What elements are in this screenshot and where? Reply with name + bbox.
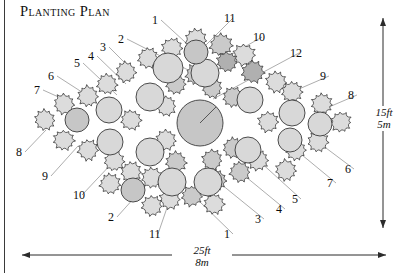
callout-number-12: 12 [290,47,302,59]
tree-symbol [235,137,261,163]
callout-number-10: 10 [73,189,85,201]
callout-number-7: 7 [327,177,333,189]
leader-line-8-12 [25,130,46,152]
callout-number-3: 3 [255,213,261,225]
width-dimension-arrow-head [378,252,386,258]
callout-number-4: 4 [88,50,94,62]
tree-symbol [308,112,332,136]
tree-symbol [136,138,164,166]
shrub-symbol [229,161,250,182]
plan-frame: Planting Plan 11123101245967886971054231… [0,0,408,273]
tree-symbol [278,128,302,152]
height-dimension-label: 15ft5m [364,106,404,131]
tree-symbol [237,87,263,113]
callout-number-8: 8 [16,146,22,158]
tree-symbol [97,129,123,155]
callout-number-6: 6 [48,70,54,82]
tree-symbol [136,83,164,111]
callout-number-1: 1 [152,14,158,26]
shrub-symbol [96,73,118,94]
callout-number-3: 3 [100,41,106,53]
callout-number-4: 4 [276,203,282,215]
callout-number-2: 2 [108,211,114,223]
tree-symbol [96,97,122,123]
tree-symbol [65,108,89,132]
height-dimension-arrow-head [380,18,386,26]
shrub-symbol [116,61,137,83]
callout-number-10: 10 [253,31,265,43]
shrub-symbol [282,81,304,101]
shrub-symbol [99,173,121,194]
callout-number-5: 5 [74,57,80,69]
tree-symbol [121,178,145,202]
width-dimension-label: 25ft8m [172,244,232,269]
callout-number-11: 11 [224,12,236,24]
shrub-symbol [209,33,234,56]
callout-number-11: 11 [149,228,161,240]
width-dimension-arrow-head [22,252,30,258]
callout-number-5: 5 [292,193,298,205]
callout-number-9: 9 [320,70,326,82]
planting-plan-drawing [0,0,408,273]
shrub-symbol [276,159,297,182]
callout-number-7: 7 [34,84,40,96]
leader-line-9-14 [51,146,78,176]
callout-number-1: 1 [224,228,230,240]
tree-symbol [184,40,208,64]
height-dimension-arrow-head [380,220,386,228]
callout-number-9: 9 [42,170,48,182]
callout-number-8: 8 [348,89,354,101]
shrub-symbol [141,196,162,217]
tree-symbol [279,100,305,126]
callout-number-6: 6 [345,163,351,175]
callout-number-2: 2 [118,33,124,45]
tree-symbol [158,168,186,196]
tree-symbol [153,53,183,83]
tree-symbol [194,168,222,196]
